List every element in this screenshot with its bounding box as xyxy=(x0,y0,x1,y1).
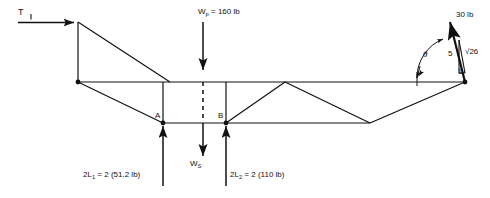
reaction-2l1-subscript: 1 xyxy=(92,174,95,180)
theta-angle-arc xyxy=(417,39,443,86)
reaction-2l2-label: 2L2 = 2 (110 lb) xyxy=(230,171,284,180)
load-wp-label: Wp = 160 lb xyxy=(198,8,240,17)
free-body-diagram-svg xyxy=(0,0,490,198)
theta-label: θ xyxy=(423,50,427,59)
tension-label: T xyxy=(18,8,24,17)
reaction-2l2-subscript: 2 xyxy=(239,174,242,180)
node-b-label: B xyxy=(218,112,223,120)
joint-a xyxy=(161,121,166,126)
tension-force-arrow xyxy=(18,14,74,23)
structure-outline xyxy=(78,22,465,123)
load-wp-symbol: W xyxy=(198,7,206,16)
triangle-vertical-label: 5 xyxy=(448,50,452,58)
load-ws-subscript: S xyxy=(198,163,202,169)
reaction-2l1-value: = 2 (51.2 lb) xyxy=(97,170,140,179)
joint-b xyxy=(224,121,229,126)
reaction-2l2-symbol: 2L xyxy=(230,170,239,179)
force-30lb-label: 30 lb xyxy=(456,11,473,19)
load-ws-label: WS xyxy=(190,160,201,169)
node-a-label: A xyxy=(155,112,160,120)
triangle-hypotenuse-label: √26 xyxy=(465,48,478,56)
triangle-base-label: 1 xyxy=(458,68,462,75)
reaction-2l1-label: 2L1 = 2 (51.2 lb) xyxy=(83,171,140,180)
load-wp-subscript: p xyxy=(206,11,209,17)
reaction-2l1-symbol: 2L xyxy=(83,170,92,179)
figure-canvas: T Wp = 160 lb WS A B 2L1 = 2 (51.2 lb) 2… xyxy=(0,0,490,198)
load-ws-symbol: W xyxy=(190,159,198,168)
joint-left xyxy=(76,80,81,85)
load-wp-value: = 160 lb xyxy=(211,7,240,16)
reaction-2l2-value: = 2 (110 lb) xyxy=(244,170,284,179)
joint-markers xyxy=(76,80,468,126)
